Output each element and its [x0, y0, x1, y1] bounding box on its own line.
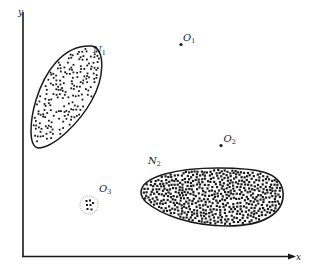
outlier-o3-label: O3	[99, 183, 111, 196]
x-axis-arrow-icon	[288, 254, 296, 260]
outlier-o3-boundary	[80, 196, 98, 214]
outlier-o1-label: O1	[183, 32, 195, 45]
outlier-o2-label: O2	[224, 133, 236, 146]
x-axis-label: x	[296, 252, 301, 262]
cluster-n1: N1	[31, 44, 106, 148]
y-axis-label: y	[17, 7, 24, 17]
outlier-o2: O2	[219, 133, 235, 147]
scatter-diagram: y x N1 N2 O1 O2	[0, 0, 313, 270]
cluster-n2-label: N2	[147, 155, 161, 168]
outlier-o1: O1	[179, 32, 195, 46]
outlier-o2-point	[219, 144, 222, 147]
outlier-o3-points	[86, 200, 95, 211]
outlier-o3: O3	[80, 183, 111, 214]
outlier-o1-point	[179, 43, 182, 46]
diagram-canvas: y x N1 N2 O1 O2	[0, 0, 313, 270]
cluster-n2: N2	[141, 155, 283, 226]
